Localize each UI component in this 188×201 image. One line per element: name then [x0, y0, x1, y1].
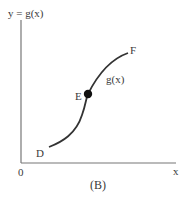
x-axis-label: x — [173, 166, 179, 177]
y-axis-label: y = g(x) — [8, 8, 44, 19]
point-f-label: F — [130, 45, 136, 56]
figure-caption: (B) — [90, 180, 106, 191]
point-d-label: D — [36, 148, 44, 159]
graph-canvas — [0, 0, 188, 201]
origin-label: 0 — [18, 167, 24, 178]
point-e-dot — [84, 90, 92, 98]
curve-g — [49, 53, 128, 147]
point-e-label: E — [75, 91, 82, 102]
curve-label: g(x) — [106, 74, 124, 85]
